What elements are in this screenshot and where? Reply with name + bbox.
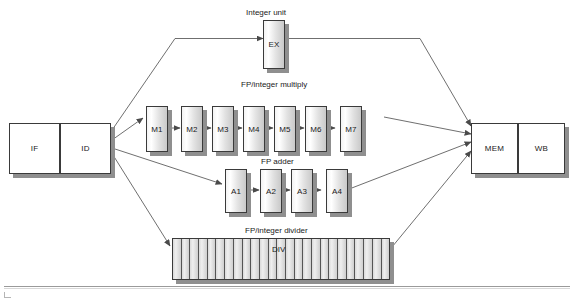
stage-mem-label: MEM [485, 144, 504, 153]
stage-m4[interactable]: M4 [243, 106, 265, 152]
divider-segment [286, 239, 295, 279]
stage-a1[interactable]: A1 [225, 169, 247, 213]
caption-integer-unit: Integer unit [246, 8, 286, 17]
caption-fp-divider: FP/integer divider [245, 226, 308, 235]
stage-m1[interactable]: M1 [146, 106, 168, 152]
divider-segment [243, 239, 252, 279]
divider-segment [321, 239, 330, 279]
divider-segment [216, 239, 225, 279]
divider-segment [382, 239, 390, 279]
stage-m5-label: M5 [279, 125, 291, 134]
divider-segment [208, 239, 217, 279]
divider-segment [295, 239, 304, 279]
stage-if[interactable]: IF [9, 123, 60, 174]
divider-segment [234, 239, 243, 279]
stage-a4-label: A4 [332, 187, 342, 196]
divider-segment [355, 239, 364, 279]
stage-ex[interactable]: EX [263, 20, 285, 69]
stage-m6[interactable]: M6 [305, 106, 327, 152]
caption-fp-adder: FP adder [261, 157, 294, 166]
divider-segment [251, 239, 260, 279]
stage-a3-label: A3 [297, 187, 307, 196]
fp-divider-label: DIV [272, 245, 285, 254]
stage-a3[interactable]: A3 [291, 169, 313, 213]
wire-div-to-mem [392, 151, 471, 247]
divider-segment [338, 239, 347, 279]
stage-a1-label: A1 [231, 187, 241, 196]
divider-segment [173, 239, 182, 279]
stage-m3-label: M3 [217, 125, 229, 134]
stage-m6-label: M6 [310, 125, 322, 134]
divider-segment [190, 239, 199, 279]
divider-segment [225, 239, 234, 279]
stage-m4-label: M4 [248, 125, 260, 134]
stage-m5[interactable]: M5 [274, 106, 296, 152]
stage-id[interactable]: ID [60, 123, 111, 174]
stage-m1-label: M1 [151, 125, 163, 134]
divider-segment [373, 239, 382, 279]
stage-if-label: IF [31, 144, 39, 153]
divider-segment [329, 239, 338, 279]
caption-fp-multiply: FP/integer multiply [241, 80, 307, 89]
wire-id-to-m1 [112, 118, 143, 140]
stage-a2[interactable]: A2 [260, 169, 282, 213]
stage-m3[interactable]: M3 [212, 106, 234, 152]
divider-segment [182, 239, 191, 279]
stage-mem[interactable]: MEM [471, 123, 518, 174]
wire-m7-to-mem [384, 117, 471, 134]
divider-segment [260, 239, 269, 279]
stage-a4[interactable]: A4 [326, 169, 348, 213]
stage-m2-label: M2 [186, 125, 198, 134]
divider-segment [312, 239, 321, 279]
divider-segment [199, 239, 208, 279]
pipeline-diagram: Integer unit FP/integer multiply FP adde… [0, 0, 575, 299]
stage-wb-label: WB [535, 144, 548, 153]
wire-id-to-div [113, 155, 170, 246]
stage-id-label: ID [81, 144, 89, 153]
divider-segment [303, 239, 312, 279]
stage-a2-label: A2 [266, 187, 276, 196]
divider-segment [347, 239, 356, 279]
stage-wb[interactable]: WB [518, 123, 565, 174]
divider-segment [364, 239, 373, 279]
stage-m2[interactable]: M2 [181, 106, 203, 152]
stage-m7-label: M7 [345, 125, 357, 134]
stage-ex-label: EX [268, 40, 279, 49]
stage-m7[interactable]: M7 [340, 106, 362, 152]
